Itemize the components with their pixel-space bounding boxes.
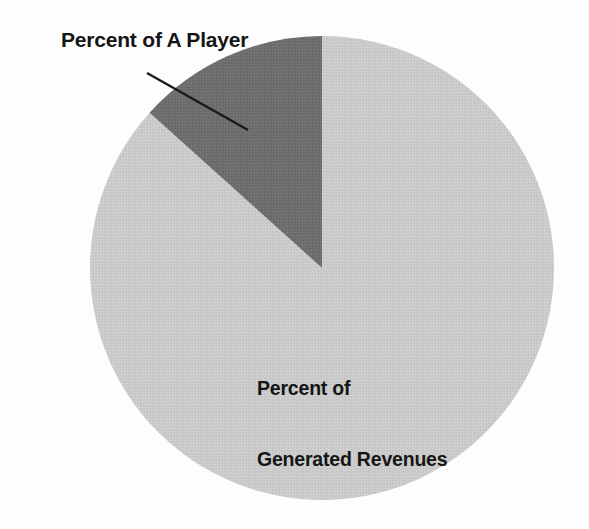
- slice-label-a-player: Percent of A Player: [61, 28, 248, 52]
- slice-label-line-2: Generated Revenues: [257, 448, 447, 472]
- slice-label-line-1: Percent of: [257, 377, 447, 401]
- pie-chart-figure: Percent of A Player Percent of Generated…: [0, 0, 589, 529]
- slice-label-generated-revenues: Percent of Generated Revenues: [257, 330, 447, 518]
